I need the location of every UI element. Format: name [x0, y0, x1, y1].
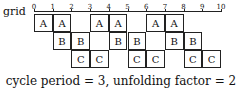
tick-mark	[53, 9, 54, 12]
schedule-diagram: grid 012345678910 AAAAAABBBBBBCCCCCC cyc…	[0, 0, 242, 94]
task-cell-c: C	[90, 50, 109, 68]
tick-mark	[165, 9, 166, 12]
tick-mark	[34, 9, 35, 12]
tick-mark	[202, 9, 203, 12]
task-cell-a: A	[90, 14, 109, 32]
task-cell-a: A	[34, 14, 53, 32]
task-cell-b: B	[109, 32, 128, 50]
task-cell-a: A	[146, 14, 165, 32]
tick-mark	[128, 9, 129, 12]
tick-mark	[90, 9, 91, 12]
tick-mark	[109, 9, 110, 12]
grid-label: grid	[3, 5, 26, 18]
task-cell-b: B	[165, 32, 184, 50]
task-cell-c: C	[184, 50, 203, 68]
task-cell-a: A	[53, 14, 72, 32]
tick-mark	[221, 9, 222, 12]
tick-mark	[146, 9, 147, 12]
caption: cycle period = 3, unfolding factor = 2	[0, 74, 242, 88]
tick-mark	[71, 9, 72, 12]
task-cell-b: B	[53, 32, 72, 50]
task-cell-b: B	[128, 32, 147, 50]
task-cell-c: C	[71, 50, 90, 68]
task-cell-c: C	[146, 50, 165, 68]
task-cell-c: C	[202, 50, 221, 68]
task-cell-a: A	[165, 14, 184, 32]
task-cell-c: C	[128, 50, 147, 68]
tick-mark	[184, 9, 185, 12]
task-cell-a: A	[109, 14, 128, 32]
task-cell-b: B	[71, 32, 90, 50]
task-cell-b: B	[184, 32, 203, 50]
